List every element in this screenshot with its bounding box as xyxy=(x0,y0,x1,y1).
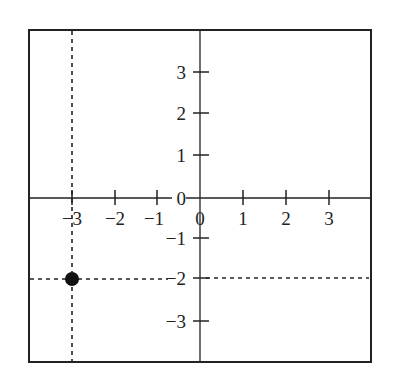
x-label-2: 2 xyxy=(281,208,291,229)
x-label-minus-3: −3 xyxy=(62,208,82,229)
x-label-1: 1 xyxy=(238,208,248,229)
y-label-2: 2 xyxy=(177,103,187,124)
data-point-minus3-minus2 xyxy=(65,272,79,286)
y-label-minus-2: −2 xyxy=(166,268,186,289)
y-label-minus-1: −1 xyxy=(166,228,186,249)
coordinate-plane: −3 −2 −1 0 1 2 3 3 2 1 0 −1 −2 −3 xyxy=(0,0,394,383)
y-ticks xyxy=(193,72,209,321)
x-label-minus-2: −2 xyxy=(105,208,125,229)
y-label-minus-3: −3 xyxy=(166,311,186,332)
y-label-1: 1 xyxy=(177,145,187,166)
x-label-zero: 0 xyxy=(195,208,205,229)
x-label-3: 3 xyxy=(324,208,334,229)
y-label-zero: 0 xyxy=(177,188,187,209)
y-label-3: 3 xyxy=(177,62,187,83)
x-label-minus-1: −1 xyxy=(144,208,164,229)
